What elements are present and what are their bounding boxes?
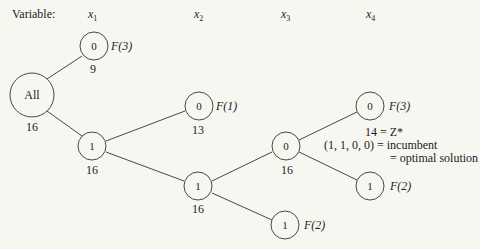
node-all-label: All [24,89,39,101]
node-x1-0-fathom: F(3) [111,40,132,52]
variable-x3: x3 [281,8,290,23]
node-x3-1-label: 1 [282,220,288,231]
variable-label: Variable: [12,8,55,20]
node-x3-0-bound: 16 [281,164,293,176]
variable-x4: x4 [366,8,375,23]
variable-x2: x2 [194,8,203,23]
node-x4-0-label: 0 [367,101,373,112]
node-x4-1-label: 1 [367,181,373,192]
node-x2-0-bound: 13 [192,124,204,136]
incumbent-annotation: (1, 1, 0, 0) = incumbent [324,139,437,151]
node-x2-1-bound: 16 [192,203,204,215]
node-x3-1-fathom: F(2) [304,219,325,231]
node-x1-1-bound: 16 [86,164,98,176]
optimal-solution-annotation: = optimal solution [390,152,478,164]
node-x3-0-label: 0 [283,141,289,152]
node-x4-1-fathom: F(2) [390,180,411,192]
node-x2-1-label: 1 [195,181,201,192]
node-all-bound: 16 [26,121,38,133]
tree-edges [0,0,480,249]
node-x4-0-fathom: F(3) [389,100,410,112]
node-x2-0-fathom: F(1) [216,100,237,112]
node-x1-0-bound: 9 [90,63,96,75]
node-x1-1-label: 1 [89,141,95,152]
variable-x1: x1 [88,8,97,23]
node-x1-0-label: 0 [91,41,97,52]
optimal-value-annotation: 14 = Z* [365,126,403,138]
node-x2-0-label: 0 [196,101,202,112]
